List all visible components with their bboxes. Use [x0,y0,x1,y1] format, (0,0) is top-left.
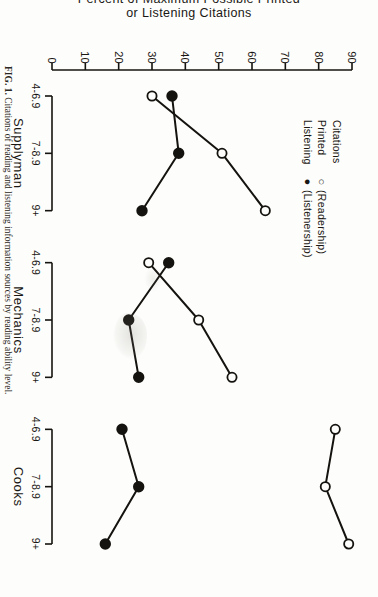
y-axis-tick-label: 20 [113,51,125,70]
data-point-filled [174,149,184,159]
data-point-open [144,258,153,267]
x-axis-group-label: Cooks [11,467,26,507]
data-point-filled [117,425,127,435]
data-point-filled [124,315,134,325]
data-point-filled [101,539,111,549]
data-point-open [344,539,353,548]
data-point-open [227,373,236,382]
series-line-printed [152,96,265,211]
x-axis-sub-label: 7-8.9 [30,474,42,499]
y-axis-tick-label: 80 [313,51,325,70]
legend-header-row: Citations [330,120,344,258]
legend-printed-note: (Readership) [315,190,329,254]
x-axis-group-label: Supplyman [11,118,26,188]
y-axis-tick-label: 50 [213,51,225,70]
legend-listening-label: Listening [301,120,315,174]
y-axis-tick-label: 60 [246,51,258,70]
data-point-open [217,149,226,158]
filled-circle-icon: ● [301,174,315,190]
y-axis-tick-label: 0 [46,58,58,70]
data-point-open [261,206,270,215]
data-point-filled [134,373,144,383]
legend-item-printed: Printed ○ (Readership) [315,120,329,258]
y-axis-tick-label: 90 [346,51,358,70]
y-axis-title: Percent of Maximum Possible Printed or L… [39,0,339,20]
x-axis-sub-label: 7-8.9 [30,141,42,166]
legend-item-listening: Listening ● (Listenership) [301,120,315,258]
data-point-filled [137,206,147,216]
figure-caption: FIG. 1. Citations of reading and listeni… [3,66,13,394]
figure-caption-text: Citations of reading and listening infor… [3,97,13,394]
x-axis-group-label: Mechanics [11,286,26,354]
x-axis-sub-label: 4-6.9 [30,84,42,109]
x-axis-sub-label: 9+ [30,538,42,550]
data-point-open [321,482,330,491]
open-circle-icon: ○ [315,174,329,190]
data-point-open [331,425,340,434]
legend: Citations Printed ○ (Readership) Listeni… [301,120,344,258]
data-point-filled [164,258,174,268]
data-point-filled [134,482,144,492]
series-line-printed [149,263,232,378]
y-axis-tick-label: 40 [179,51,191,70]
data-point-open [194,315,203,324]
x-axis-sub-label: 4-6.9 [30,250,42,275]
legend-listening-note: (Listenership) [301,190,315,258]
y-axis-tick-label: 70 [279,51,291,70]
y-axis-title-line2: or Listening Citations [39,6,339,20]
data-point-filled [167,91,177,101]
x-axis-sub-label: 9+ [30,371,42,383]
x-axis-sub-label: 4-6.9 [30,417,42,442]
figure-caption-label: FIG. 1. [3,66,13,95]
legend-header: Citations [330,120,344,174]
data-point-open [147,91,156,100]
x-axis-sub-label: 9+ [30,204,42,216]
figure: 0102030405060708090 4-6.97-8.99+Supplyma… [0,0,378,597]
y-axis-tick-label: 30 [146,51,158,70]
rotated-figure-wrapper: 0102030405060708090 4-6.97-8.99+Supplyma… [0,0,378,597]
legend-printed-label: Printed [315,120,329,174]
x-axis-sub-label: 7-8.9 [30,308,42,333]
y-axis-tick-label: 10 [79,51,91,70]
